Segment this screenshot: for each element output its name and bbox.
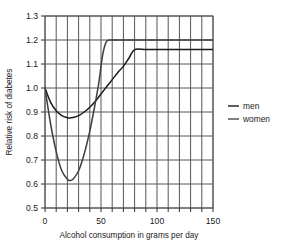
y-axis-tick-label: 0.7 <box>26 155 38 165</box>
y-axis-tick-label: 1.2 <box>26 35 38 45</box>
y-axis-tick-label: 1.0 <box>26 83 38 93</box>
x-axis-tick-label: 50 <box>96 216 106 226</box>
y-axis-tick-label: 0.9 <box>26 107 38 117</box>
y-axis-tick-label: 0.8 <box>26 131 38 141</box>
x-axis-title: Alcohol consumption in grams per day <box>60 231 200 240</box>
y-axis-title: Relative risk of diabetes <box>5 69 14 156</box>
y-axis-tick-label: 1.3 <box>26 11 38 21</box>
y-axis-tick-label: 0.6 <box>26 179 38 189</box>
x-axis-tick-label: 100 <box>150 216 165 226</box>
legend-label-men: men <box>243 101 260 111</box>
chart-figure: 0.50.60.70.80.91.01.11.21.3 050100150 Re… <box>0 0 304 248</box>
x-axis-tick-label: 0 <box>43 216 48 226</box>
y-axis-tick-label: 1.1 <box>26 59 38 69</box>
legend-label-women: women <box>242 114 270 124</box>
relative-risk-of-diabetes-line-chart: 0.50.60.70.80.91.01.11.21.3 050100150 Re… <box>0 0 304 248</box>
x-axis-tick-label: 150 <box>206 216 221 226</box>
y-axis-tick-label: 0.5 <box>26 203 38 213</box>
y-axis-tick-labels: 0.50.60.70.80.91.01.11.21.3 <box>26 11 38 213</box>
